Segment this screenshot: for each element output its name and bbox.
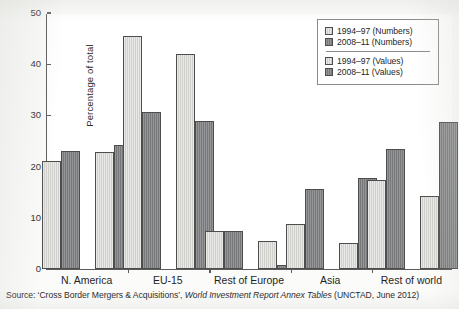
bar — [339, 243, 358, 269]
x-axis-label: Asia — [290, 274, 371, 286]
bar — [123, 36, 142, 269]
x-tick — [291, 269, 292, 273]
bar — [176, 54, 195, 269]
x-tick — [372, 269, 373, 273]
bar — [439, 122, 458, 269]
y-tick-label: 20 — [30, 161, 41, 172]
bar — [367, 180, 386, 269]
legend-item: 1994–97 (Values) — [325, 56, 431, 66]
x-tick — [209, 269, 210, 273]
bar — [305, 189, 324, 269]
x-tick — [128, 269, 129, 273]
bar — [61, 151, 80, 269]
legend-swatch-icon — [325, 68, 333, 76]
y-tick-label: 50 — [30, 7, 41, 18]
legend-item-label: 1994–97 (Numbers) — [337, 26, 413, 36]
bar-subgroup — [123, 14, 161, 269]
bar — [224, 231, 243, 269]
chart-legend: 1994–97 (Numbers) 2008–11 (Numbers) 1994… — [317, 19, 439, 85]
legend-item: 1994–97 (Numbers) — [325, 26, 431, 36]
bar-group — [42, 14, 133, 269]
legend-item-label: 2008–11 (Numbers) — [337, 37, 412, 47]
y-tick-label: 0 — [36, 263, 41, 274]
y-tick-label: 40 — [30, 58, 41, 69]
legend-item-label: 1994–97 (Values) — [337, 56, 403, 66]
legend-item: 2008–11 (Numbers) — [325, 37, 431, 47]
bar — [42, 161, 61, 269]
bar — [142, 112, 161, 269]
bar — [420, 196, 439, 269]
x-axis-label: Rest of world — [371, 274, 452, 286]
legend-divider — [326, 51, 430, 52]
bar-subgroup — [42, 14, 80, 269]
legend-item-label: 2008–11 (Values) — [337, 67, 403, 77]
legend-swatch-icon — [325, 38, 333, 46]
bar-subgroup — [205, 14, 243, 269]
y-tick-label: 30 — [30, 109, 41, 120]
bar — [205, 231, 224, 269]
bar — [286, 224, 305, 269]
x-axis-label: Rest of Europe — [208, 274, 289, 286]
bar-group — [123, 14, 214, 269]
legend-swatch-icon — [325, 27, 333, 35]
bar — [386, 149, 405, 269]
legend-swatch-icon — [325, 57, 333, 65]
chart-figure: Percentage of total 01020304050 N. Ameri… — [0, 0, 459, 309]
source-suffix: (UNCTAD, June 2012) — [332, 290, 419, 300]
x-axis-label: N. America — [46, 274, 127, 286]
source-prefix: Source: ‘Cross Border Mergers & Acquisit… — [6, 290, 185, 300]
source-title: World Investment Report Annex Tables — [185, 290, 332, 300]
x-axis-label: EU-15 — [127, 274, 208, 286]
y-tick-label: 10 — [30, 212, 41, 223]
legend-item: 2008–11 (Values) — [325, 67, 431, 77]
bar-group — [205, 14, 296, 269]
source-note: Source: ‘Cross Border Mergers & Acquisit… — [6, 290, 453, 300]
bar — [258, 241, 277, 269]
bar — [95, 152, 114, 269]
